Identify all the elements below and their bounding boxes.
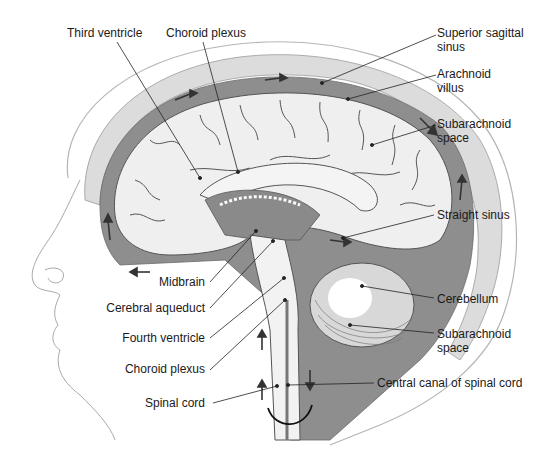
label-straight-sinus: Straight sinus [437, 208, 510, 222]
label-subarachnoid-space-bottom-line2: space [437, 341, 511, 355]
label-arachnoid-villus-line2: villus [437, 81, 491, 95]
label-arachnoid-villus-line1: Arachnoid [437, 67, 491, 81]
label-subarachnoid-space-bottom-line1: Subarachnoid [437, 327, 511, 341]
label-subarachnoid-space-top-line1: Subarachnoid [437, 117, 511, 131]
label-choroid-plexus-bottom: Choroid plexus [95, 362, 205, 376]
label-subarachnoid-space-top: Subarachnoid space [437, 117, 511, 145]
label-midbrain: Midbrain [130, 275, 205, 289]
label-central-canal: Central canal of spinal cord [377, 376, 522, 390]
label-cerebral-aqueduct: Cerebral aqueduct [95, 301, 205, 315]
label-subarachnoid-space-top-line2: space [437, 131, 511, 145]
label-superior-sagittal-sinus: Superior sagittal sinus [437, 26, 524, 54]
label-fourth-ventricle: Fourth ventricle [95, 331, 205, 345]
label-spinal-cord: Spinal cord [95, 396, 205, 410]
label-superior-sagittal-sinus-line1: Superior sagittal [437, 26, 524, 40]
label-subarachnoid-space-bottom: Subarachnoid space [437, 327, 511, 355]
label-cerebellum: Cerebellum [437, 292, 498, 306]
cerebellum-shape [310, 263, 414, 347]
label-superior-sagittal-sinus-line2: sinus [437, 40, 524, 54]
label-third-ventricle: Third ventricle [67, 26, 142, 40]
label-choroid-plexus-top: Choroid plexus [166, 26, 246, 40]
label-arachnoid-villus: Arachnoid villus [437, 67, 491, 95]
nostril [45, 268, 64, 283]
